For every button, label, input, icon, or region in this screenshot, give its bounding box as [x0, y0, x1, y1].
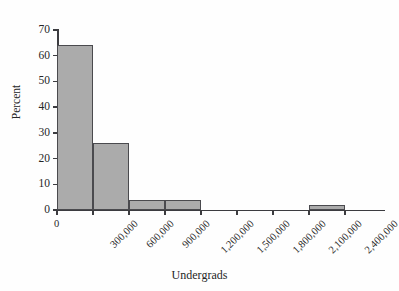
histogram-figure: 010203040506070 0300,000600,000900,0001,…: [0, 0, 399, 291]
x-axis-tick-label: 300,000: [108, 218, 140, 250]
x-axis-tick-label: 2,100,000: [326, 218, 363, 255]
y-axis-tick-label: 0: [0, 204, 50, 216]
y-axis-tick-label-text: 60: [0, 50, 50, 62]
x-axis-tick: [308, 210, 309, 215]
x-axis-tick-label: 900,000: [180, 218, 212, 250]
x-axis-tick: [200, 210, 201, 215]
y-axis-tick-label-text: 40: [0, 101, 50, 113]
y-axis-tick-label: 10: [0, 178, 50, 190]
x-axis-tick: [56, 210, 57, 215]
histogram-bar: [129, 200, 165, 210]
y-axis-tick-label-text: 70: [0, 24, 50, 36]
x-axis-tick-label: 1,200,000: [218, 218, 255, 255]
y-axis-tick-label-text: 10: [0, 178, 50, 190]
x-axis-tick: [164, 210, 165, 215]
y-axis-tick-label: 70: [0, 24, 50, 36]
y-axis-tick-label-text: 20: [0, 153, 50, 165]
x-axis-tick-label: 0: [54, 218, 59, 229]
y-axis-tick-label: 20: [0, 153, 50, 165]
x-axis-tick: [92, 210, 93, 215]
y-axis-title: Percent: [10, 72, 22, 132]
y-axis-tick-label-text: 50: [0, 75, 50, 87]
y-axis-tick-label: 50: [0, 75, 50, 87]
x-axis-tick-label: 2,400,000: [362, 218, 399, 255]
x-axis-tick-label: 1,800,000: [290, 218, 327, 255]
x-axis-tick: [344, 210, 345, 215]
y-axis-tick-label: 60: [0, 50, 50, 62]
x-axis-tick: [128, 210, 129, 215]
x-axis-tick-label: 600,000: [144, 218, 176, 250]
histogram-bar: [165, 200, 201, 210]
y-axis-tick-label-text: 30: [0, 127, 50, 139]
y-axis-tick-label: 30: [0, 127, 50, 139]
y-axis-tick-label: 40: [0, 101, 50, 113]
histogram-bar: [93, 143, 129, 210]
x-axis-tick: [272, 210, 273, 215]
x-axis-tick-label: 1,500,000: [254, 218, 291, 255]
x-axis-tick: [236, 210, 237, 215]
y-axis-tick: [53, 29, 57, 30]
y-axis-tick-label-text: 0: [0, 204, 50, 216]
histogram-bar: [309, 205, 345, 210]
histogram-bar: [57, 45, 93, 210]
x-axis-title: Undergrads: [0, 268, 399, 283]
